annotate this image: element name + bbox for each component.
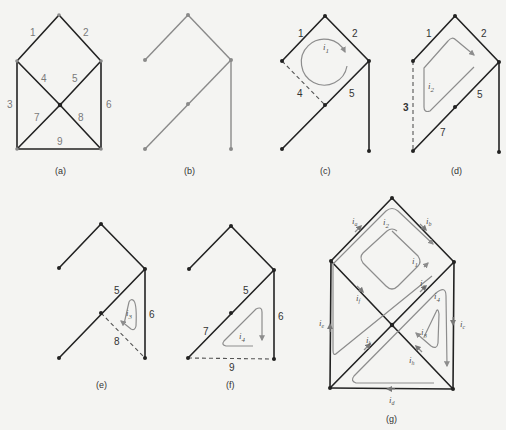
current-i3: i3 [126,308,133,321]
edge-label-5: 5 [72,73,78,84]
svg-text:1: 1 [426,28,432,39]
svg-text:6: 6 [278,311,284,322]
edge-label-4: 4 [41,73,47,84]
svg-text:5: 5 [477,89,483,100]
svg-text:(d): (d) [451,166,462,176]
branch-current-ih: ih [409,355,415,366]
edge-4 [17,61,60,105]
svg-text:5: 5 [243,285,249,296]
edge-2 [59,15,101,61]
branch-current-ie: ie [319,318,325,329]
edge-label-8: 8 [78,112,84,123]
svg-text:5: 5 [114,285,120,296]
svg-text:1: 1 [298,28,304,39]
circuit-graph-figure: 1 2 3 4 5 6 7 8 9 (a) (b) 1 2 4 5 i1 [0,0,506,430]
panel-e-loop-i3: 5 6 8 i3 (e) [57,222,155,390]
current-i4: i4 [239,331,246,344]
edge-label-3: 3 [7,99,13,110]
panel-c-loop-i1: 1 2 4 5 i1 (c) [280,14,371,176]
edge-label-1: 1 [30,27,36,38]
caption-b: (b) [184,166,195,176]
panel-f-loop-i4: 5 6 7 9 i4 (f) [186,224,284,390]
panel-b-tree: (b) [143,13,233,176]
edge-1 [17,15,59,61]
panel-d-loop-i2: 1 2 3 5 7 i2 (d) [403,14,501,176]
edge-label-7: 7 [34,112,40,123]
branch-current-ic: ic [460,319,466,330]
edge-5 [60,61,101,105]
svg-text:8: 8 [114,336,120,347]
svg-text:(f): (f) [226,380,235,390]
svg-text:7: 7 [203,326,209,337]
panel-a-graph: 1 2 3 4 5 6 7 8 9 (a) [7,13,112,176]
edge-label-6: 6 [106,99,112,110]
svg-text:2: 2 [352,28,358,39]
branch-current-ib: ib [426,216,432,227]
current-i4-g: i4 [434,291,441,304]
branch-current-if: if [356,293,362,304]
caption-a: (a) [55,166,66,176]
branch-current-ik: ik [366,335,372,346]
current-i1: i1 [323,42,329,55]
branch-current-id: id [389,395,396,406]
svg-text:3: 3 [403,102,409,113]
svg-text:7: 7 [440,127,446,138]
branch-current-ia: ia [352,216,358,227]
svg-text:(c): (c) [320,166,331,176]
panel-g-all-currents: i2 i1 i4 i3 ia ib ic id ie if ig ih ik (… [319,196,466,424]
svg-text:4: 4 [297,88,303,99]
svg-text:6: 6 [149,309,155,320]
current-i2: i2 [428,81,435,94]
current-i1-g: i1 [412,256,418,269]
branch-current-ig: ig [420,278,426,289]
svg-text:(g): (g) [386,414,397,424]
current-i2-g: i2 [383,217,390,230]
edge-label-2: 2 [83,27,89,38]
svg-text:2: 2 [481,28,487,39]
svg-text:(e): (e) [96,380,107,390]
edge-label-9: 9 [57,136,63,147]
svg-text:5: 5 [349,88,355,99]
svg-text:9: 9 [229,362,235,373]
